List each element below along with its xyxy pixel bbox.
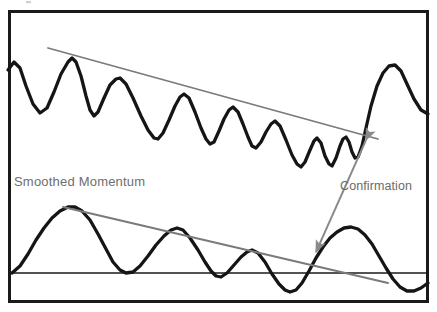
confirmation-label: Confirmation xyxy=(340,179,412,193)
smoothed-momentum-label: Smoothed Momentum xyxy=(14,174,145,189)
technical-analysis-figure: Smoothed Momentum Confirmation xyxy=(0,0,437,312)
chart-canvas: Smoothed Momentum Confirmation xyxy=(0,0,437,312)
scan-artifact-speck xyxy=(26,1,31,3)
